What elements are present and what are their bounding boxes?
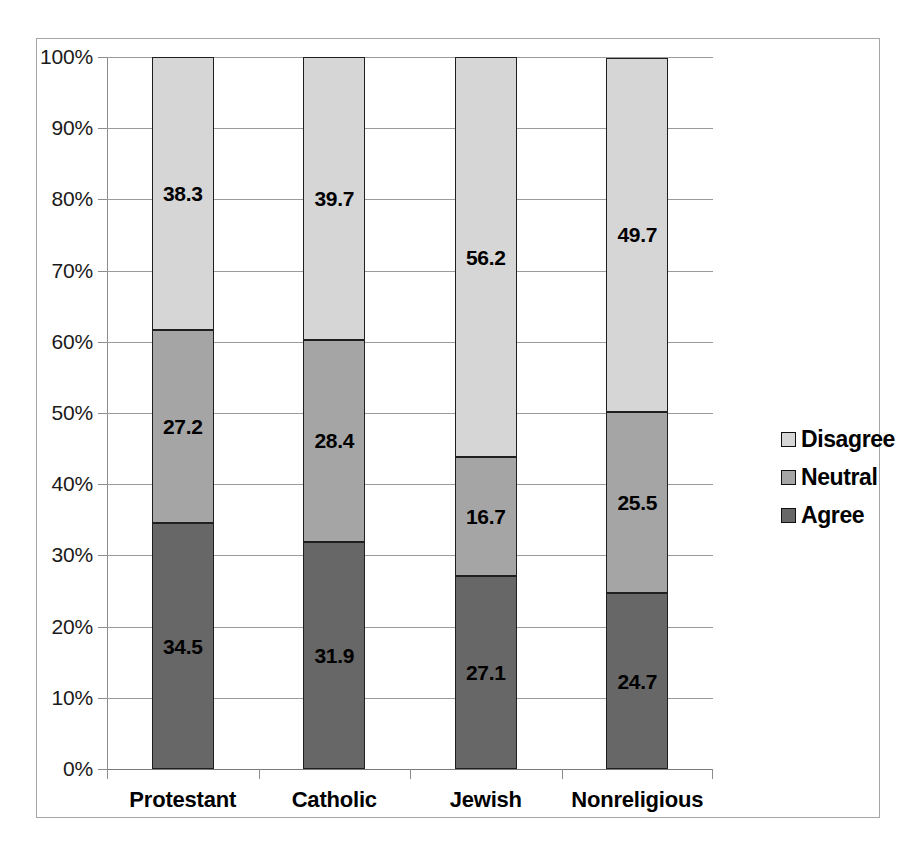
y-axis-tick (98, 57, 107, 58)
bar-value-label: 38.3 (153, 183, 213, 204)
y-axis-tick-label: 80% (19, 187, 93, 211)
x-axis-tick (107, 769, 108, 779)
bar-value-label: 25.5 (607, 492, 667, 513)
y-axis-tick-label: 50% (19, 401, 93, 425)
bar-segment-disagree[interactable]: 39.7 (303, 57, 365, 340)
legend-item-agree[interactable]: Agree (781, 496, 895, 534)
bar-value-label: 27.1 (456, 662, 516, 683)
bar-value-label: 27.2 (153, 416, 213, 437)
legend-swatch-icon (781, 508, 796, 523)
category-label-catholic: Catholic (292, 787, 377, 813)
x-axis-tick (562, 769, 563, 779)
bar-value-label: 34.5 (153, 636, 213, 657)
bar-value-label: 31.9 (304, 645, 364, 666)
legend-swatch-icon (781, 432, 796, 447)
y-axis-tick-label: 100% (19, 45, 93, 69)
y-axis-tick-label: 90% (19, 116, 93, 140)
category-label-protestant: Protestant (129, 787, 236, 813)
y-axis-tick (98, 555, 107, 556)
y-axis-tick-label: 40% (19, 472, 93, 496)
bar-value-label: 56.2 (456, 247, 516, 268)
bar-segment-disagree[interactable]: 49.7 (606, 58, 668, 412)
y-axis-tick (98, 199, 107, 200)
y-axis-tick-label: 60% (19, 330, 93, 354)
bar-segment-agree[interactable]: 24.7 (606, 593, 668, 769)
bar-segment-disagree[interactable]: 38.3 (152, 57, 214, 330)
bar-value-label: 49.7 (607, 224, 667, 245)
y-axis-tick-label: 10% (19, 686, 93, 710)
legend-swatch-icon (781, 470, 796, 485)
bar-segment-agree[interactable]: 31.9 (303, 542, 365, 769)
bar-segment-agree[interactable]: 34.5 (152, 523, 214, 769)
legend-item-neutral[interactable]: Neutral (781, 458, 895, 496)
x-axis-tick (712, 769, 713, 779)
y-axis-tick (98, 128, 107, 129)
y-axis-tick (98, 627, 107, 628)
bar-segment-disagree[interactable]: 56.2 (455, 57, 517, 457)
y-axis-tick-label: 0% (19, 757, 93, 781)
bar-value-label: 39.7 (304, 188, 364, 209)
bar-column-nonreligious[interactable]: 24.725.549.7 (606, 57, 668, 769)
bar-column-protestant[interactable]: 34.527.238.3 (152, 57, 214, 769)
category-label-jewish: Jewish (450, 787, 522, 813)
legend-label: Disagree (801, 426, 895, 453)
bar-segment-neutral[interactable]: 28.4 (303, 340, 365, 542)
chart-frame: 0%10%20%30%40%50%60%70%80%90%100% 34.527… (36, 38, 880, 818)
bar-segment-neutral[interactable]: 27.2 (152, 330, 214, 524)
bar-segment-neutral[interactable]: 25.5 (606, 412, 668, 594)
y-axis-tick (98, 484, 107, 485)
legend-label: Agree (801, 502, 864, 529)
y-axis-tick (98, 271, 107, 272)
y-axis-tick-label: 70% (19, 259, 93, 283)
bar-segment-agree[interactable]: 27.1 (455, 576, 517, 769)
legend-item-disagree[interactable]: Disagree (781, 420, 895, 458)
bar-value-label: 24.7 (607, 671, 667, 692)
bar-segment-neutral[interactable]: 16.7 (455, 457, 517, 576)
y-axis-tick (98, 769, 107, 770)
legend-label: Neutral (801, 464, 877, 491)
category-label-nonreligious: Nonreligious (571, 787, 703, 813)
x-axis-tick (259, 769, 260, 779)
bar-value-label: 16.7 (456, 506, 516, 527)
plot-area: 0%10%20%30%40%50%60%70%80%90%100% 34.527… (107, 57, 713, 769)
y-axis-tick (98, 342, 107, 343)
y-axis-tick (98, 413, 107, 414)
bar-column-catholic[interactable]: 31.928.439.7 (303, 57, 365, 769)
bar-column-jewish[interactable]: 27.116.756.2 (455, 57, 517, 769)
bar-value-label: 28.4 (304, 430, 364, 451)
y-axis-tick (98, 698, 107, 699)
x-axis-tick (410, 769, 411, 779)
y-axis-tick-label: 30% (19, 543, 93, 567)
y-axis-tick-label: 20% (19, 615, 93, 639)
chart-legend: DisagreeNeutralAgree (781, 420, 895, 534)
